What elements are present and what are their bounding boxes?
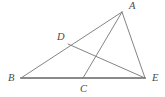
geometry-figure: A B C D E: [0, 0, 165, 97]
segment-ca: [83, 12, 122, 78]
segment-ba: [21, 12, 122, 78]
segment-de: [68, 44, 145, 78]
geometry-canvas: A B C D E: [0, 0, 165, 97]
vertex-label-a: A: [128, 0, 136, 11]
vertex-label-b: B: [8, 72, 15, 83]
segment-ae: [122, 12, 145, 78]
vertex-label-e: E: [151, 72, 159, 83]
vertex-label-d: D: [56, 31, 65, 42]
vertex-label-c: C: [80, 83, 88, 94]
